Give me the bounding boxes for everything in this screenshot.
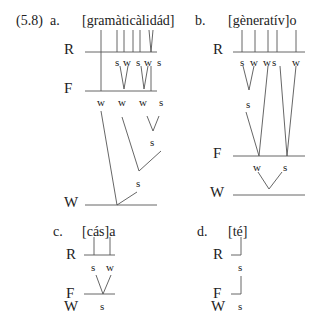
word-form: [té]: [228, 225, 247, 239]
tier-label-w: W: [211, 299, 225, 314]
tier-label-r: R: [64, 42, 74, 57]
tier-label-w: W: [210, 185, 224, 200]
node: s: [283, 162, 287, 173]
panel-label: d.: [197, 225, 208, 239]
node: s: [272, 57, 276, 68]
tier-label-f: F: [64, 81, 72, 96]
tier-label-f: F: [213, 146, 221, 161]
node: w: [123, 57, 131, 68]
node: w: [263, 57, 271, 68]
node: s: [159, 97, 163, 108]
node: s: [100, 301, 104, 312]
node: w: [106, 262, 114, 273]
node: s: [238, 301, 242, 312]
node: w: [292, 57, 300, 68]
tier-label-r: R: [213, 42, 223, 57]
word-form: [gèneratív]o: [228, 14, 296, 28]
word-form: [gramàticàlidád]: [82, 14, 175, 28]
node: w: [118, 97, 126, 108]
node: w: [250, 57, 258, 68]
node: s: [136, 57, 140, 68]
node: w: [97, 97, 105, 108]
tier-label-w: W: [64, 195, 78, 210]
node: s: [157, 57, 161, 68]
node: s: [238, 262, 242, 273]
panel-label: a.: [50, 14, 60, 28]
node: s: [136, 178, 140, 189]
word-form: [cás]a: [82, 225, 115, 239]
node: w: [144, 57, 152, 68]
panel-label: c.: [53, 225, 63, 239]
node: s: [115, 57, 119, 68]
tier-label-w: W: [64, 299, 78, 314]
tree-lines: [0, 0, 315, 325]
tier-label-r: R: [213, 247, 223, 262]
node: w: [253, 162, 261, 173]
node: s: [246, 99, 250, 110]
node: w: [139, 97, 147, 108]
node: s: [150, 137, 154, 148]
node: s: [91, 262, 95, 273]
panel-label: b.: [195, 14, 206, 28]
example-number: (5.8): [16, 14, 43, 28]
node: s: [240, 57, 244, 68]
tier-label-r: R: [66, 247, 76, 262]
